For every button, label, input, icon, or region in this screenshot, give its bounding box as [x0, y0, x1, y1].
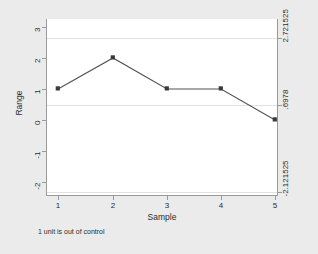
x-axis-line — [47, 195, 278, 196]
y-ticklabel-3: 3 — [33, 28, 42, 32]
y2-ticklabel-center: .6978 — [281, 89, 290, 109]
y-axis-title: Range — [14, 73, 24, 133]
x-axis-title: Sample — [47, 212, 277, 222]
y-tick-3 — [42, 27, 46, 28]
y-tick-neg2 — [42, 182, 46, 183]
x-ticklabel-1: 1 — [46, 201, 70, 210]
control-chart-figure: 3 2 1 0 -1 -2 2.721525 .6978 -2.121525 1… — [0, 0, 318, 254]
y2-ticklabel-lcl: -2.121525 — [281, 160, 290, 196]
y-tick-0 — [42, 120, 46, 121]
y-ticklabel-neg2: -2 — [33, 183, 42, 190]
x-tick-1 — [58, 196, 59, 200]
y-tick-neg1 — [42, 151, 46, 152]
x-tick-4 — [221, 196, 222, 200]
y-ticklabel-2: 2 — [33, 59, 42, 63]
x-ticklabel-4: 4 — [209, 201, 233, 210]
data-point-marker — [273, 117, 277, 121]
y2-ticklabel-ucl: 2.721525 — [281, 9, 290, 42]
data-point-marker — [219, 86, 223, 90]
data-point-marker — [111, 55, 115, 59]
y-ticklabel-1: 1 — [33, 90, 42, 94]
y-ticklabel-neg1: -1 — [33, 152, 42, 159]
x-tick-5 — [275, 196, 276, 200]
x-ticklabel-5: 5 — [263, 201, 287, 210]
data-point-marker — [165, 86, 169, 90]
out-of-control-note: 1 unit is out of control — [38, 228, 105, 235]
x-tick-3 — [167, 196, 168, 200]
x-ticklabel-2: 2 — [101, 201, 125, 210]
y-tick-2 — [42, 58, 46, 59]
x-tick-2 — [113, 196, 114, 200]
y-ticklabel-0: 0 — [33, 121, 42, 125]
data-point-marker — [56, 86, 60, 90]
y-tick-1 — [42, 89, 46, 90]
secondary-y-axis-line — [277, 19, 278, 196]
data-series — [47, 19, 277, 195]
x-ticklabel-3: 3 — [155, 201, 179, 210]
